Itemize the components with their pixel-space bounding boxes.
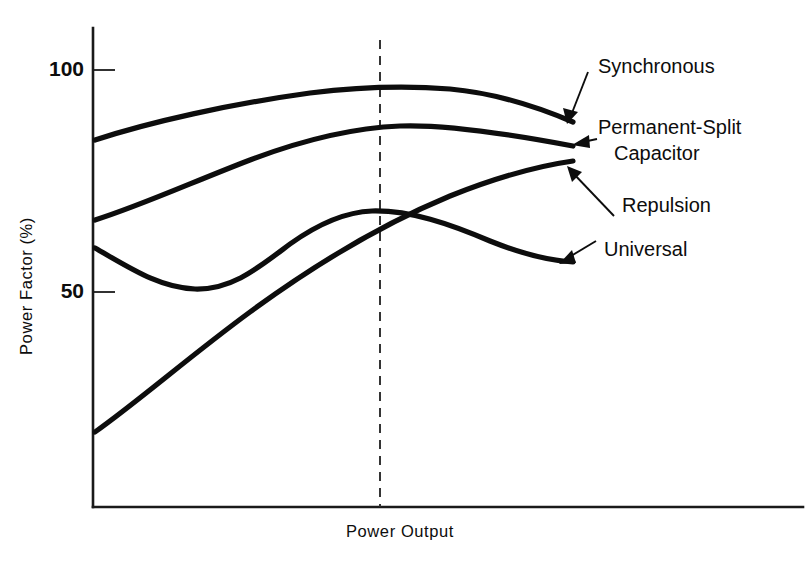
leader-arrow-universal (559, 250, 576, 264)
curve-universal (95, 161, 573, 432)
y-axis-title: Power Factor (%) (17, 217, 35, 355)
series-label-permanent-split-capacitor-line1: Permanent-Split (598, 116, 742, 138)
y-tick-label-100: 100 (49, 57, 84, 80)
series-label-universal: Universal (604, 238, 687, 260)
curve-permanent-split-capacitor (95, 126, 573, 220)
leader-universal (559, 241, 596, 264)
leader-permanent-split-capacitor (572, 135, 597, 148)
curve-repulsion (95, 211, 573, 289)
chart-canvas: 100 50 Power Factor (%) Power Output (0, 0, 812, 566)
series-label-repulsion: Repulsion (622, 194, 711, 216)
leader-synchronous (563, 72, 588, 124)
x-axis-title: Power Output (346, 522, 454, 540)
series-label-synchronous: Synchronous (598, 55, 715, 77)
axes-group (93, 28, 803, 507)
power-factor-chart: 100 50 Power Factor (%) Power Output (0, 0, 812, 566)
leader-repulsion (567, 166, 614, 216)
y-tick-label-50: 50 (61, 279, 84, 302)
series-label-permanent-split-capacitor-line2: Capacitor (614, 142, 700, 164)
